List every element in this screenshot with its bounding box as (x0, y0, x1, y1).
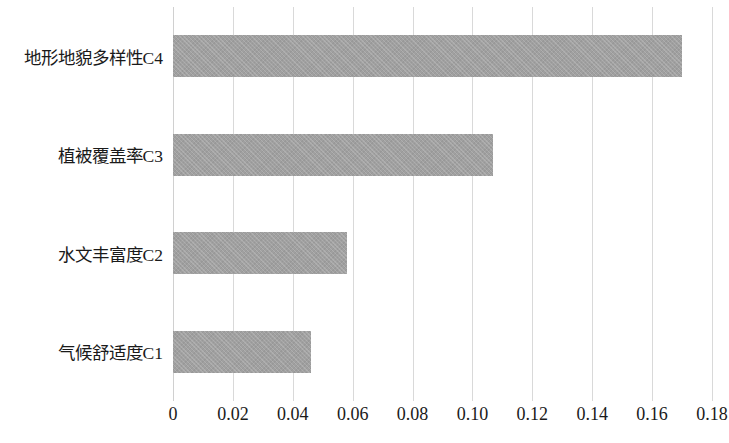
y-axis-tick-label: 水文丰富度C2 (0, 204, 163, 303)
y-axis-labels: 地形地貌多样性C4 植被覆盖率C3 水文丰富度C2 气候舒适度C1 (0, 7, 168, 401)
x-axis-tick-label: 0.18 (696, 404, 728, 425)
bar-chart: 地形地貌多样性C4 植被覆盖率C3 水文丰富度C2 气候舒适度C1 (0, 0, 729, 443)
bar-slot (173, 106, 712, 205)
x-axis-tick-label: 0.08 (397, 404, 429, 425)
bar-c4[interactable] (173, 35, 682, 77)
x-axis-tick-label: 0.06 (337, 404, 369, 425)
x-axis-tick-label: 0.10 (457, 404, 489, 425)
bar-slot (173, 303, 712, 402)
x-axis-tick-label: 0.14 (576, 404, 608, 425)
x-axis-tick-label: 0.16 (636, 404, 668, 425)
bar-slot (173, 204, 712, 303)
y-axis-tick-label: 气候舒适度C1 (0, 303, 163, 402)
plot-area (173, 7, 712, 401)
x-axis-tick-label: 0.02 (217, 404, 249, 425)
bar-c1[interactable] (173, 331, 311, 373)
x-axis-tick-label: 0 (169, 404, 178, 425)
bar-c2[interactable] (173, 232, 347, 274)
gridline-9 (712, 7, 713, 401)
x-axis-labels: 0 0.02 0.04 0.06 0.08 0.10 0.12 0.14 0.1… (173, 404, 712, 436)
bar-c3[interactable] (173, 134, 493, 176)
bar-slot (173, 7, 712, 106)
x-axis-tick-label: 0.12 (517, 404, 549, 425)
bars (173, 7, 712, 401)
y-axis-tick-label: 地形地貌多样性C4 (0, 7, 163, 106)
x-axis-tick-label: 0.04 (277, 404, 309, 425)
y-axis-tick-label: 植被覆盖率C3 (0, 106, 163, 205)
